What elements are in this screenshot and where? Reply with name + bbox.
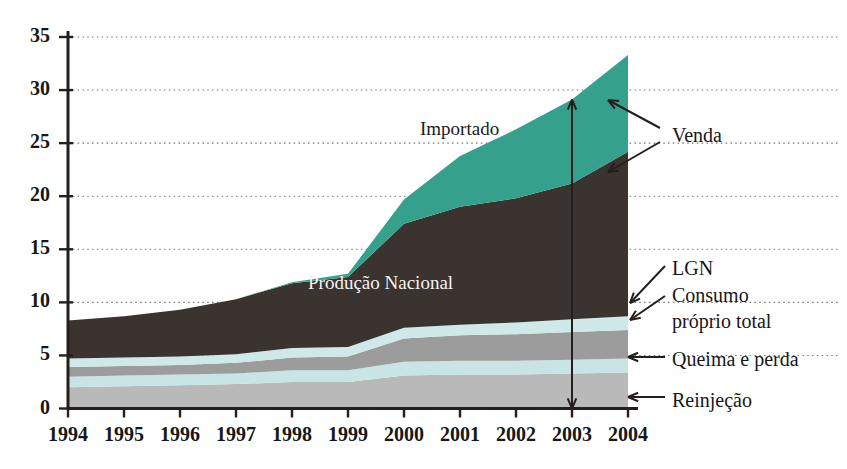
x-tick-label-2000: 2000 bbox=[374, 423, 434, 446]
x-tick-label-1999: 1999 bbox=[318, 423, 378, 446]
x-tick-label-1996: 1996 bbox=[150, 423, 210, 446]
annotation-venda: Venda bbox=[672, 124, 722, 146]
annotation-reinjecao: Reinjeção bbox=[672, 389, 752, 411]
x-tick-label-1998: 1998 bbox=[262, 423, 322, 446]
y-tick-label: 15 bbox=[10, 236, 50, 259]
x-tick-label-1997: 1997 bbox=[206, 423, 266, 446]
x-tick-label-2002: 2002 bbox=[486, 423, 546, 446]
y-tick-label: 30 bbox=[10, 77, 50, 100]
series-label-producao-nacional: Produção Nacional bbox=[308, 272, 453, 294]
area-series-group bbox=[68, 55, 628, 408]
y-tick-label: 0 bbox=[10, 396, 50, 419]
arrow-lgn bbox=[630, 266, 665, 303]
y-tick-label: 10 bbox=[10, 289, 50, 312]
y-tick-label: 35 bbox=[10, 24, 50, 47]
x-tick-label-1995: 1995 bbox=[94, 423, 154, 446]
x-tick-label-1994: 1994 bbox=[38, 423, 98, 446]
y-tick-label: 5 bbox=[10, 342, 50, 365]
annotation-consumo-line2: próprio total bbox=[672, 310, 771, 332]
x-tick-label-2003: 2003 bbox=[542, 423, 602, 446]
series-label-importado: Importado bbox=[420, 118, 499, 140]
arrow-queima-e-perda bbox=[628, 353, 665, 362]
arrow-consumo-proprio-total bbox=[630, 296, 665, 320]
y-tick-label: 25 bbox=[10, 130, 50, 153]
annotation-queima-e-perda: Queima e perda bbox=[672, 348, 799, 370]
x-tick-label-2004: 2004 bbox=[598, 423, 658, 446]
x-tick-label-2001: 2001 bbox=[430, 423, 490, 446]
arrow-reinjecao bbox=[628, 393, 665, 402]
y-tick-label: 20 bbox=[10, 183, 50, 206]
annotation-lgn: LGN bbox=[672, 257, 713, 279]
annotation-consumo-line1: Consumo bbox=[672, 284, 749, 306]
chart-root: 35302520151050 1994199519961997199819992… bbox=[0, 0, 847, 469]
